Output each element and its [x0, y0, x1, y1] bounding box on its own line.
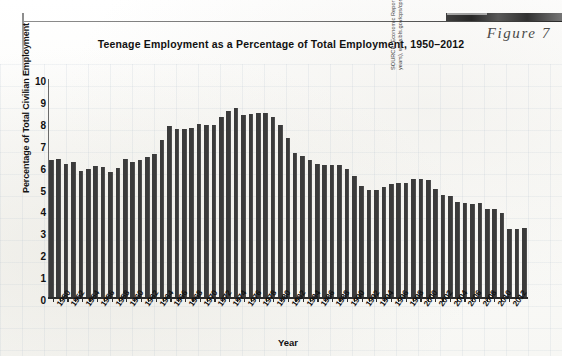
bar — [433, 189, 438, 297]
y-tick-4: 4 — [40, 207, 46, 218]
bar — [308, 160, 313, 297]
y-tick-8: 8 — [40, 119, 46, 130]
bar — [374, 190, 379, 297]
bar — [330, 165, 335, 297]
bar — [463, 203, 468, 297]
bar — [322, 165, 327, 297]
bar — [167, 126, 172, 297]
bar — [345, 169, 350, 297]
bar — [219, 117, 224, 297]
bar — [145, 157, 150, 297]
bar — [470, 204, 475, 297]
bar — [152, 154, 157, 297]
bar — [382, 187, 387, 297]
x-axis-title: Year — [49, 337, 527, 348]
y-tick-0: 0 — [40, 295, 46, 306]
bar — [116, 168, 121, 297]
bar — [101, 167, 106, 297]
bar — [108, 172, 113, 297]
bar — [396, 183, 401, 297]
bar — [182, 129, 187, 297]
bar — [389, 184, 394, 297]
bar — [204, 125, 209, 297]
bar — [286, 138, 291, 297]
bar — [300, 156, 305, 297]
y-tick-10: 10 — [35, 76, 46, 87]
source-note: SOURCE: Economic Report of the President… — [390, 0, 405, 70]
bar — [337, 165, 342, 297]
bar — [500, 213, 505, 297]
bar — [249, 114, 254, 297]
bar — [507, 229, 512, 297]
bar — [256, 113, 261, 297]
bar — [478, 203, 483, 297]
bar — [359, 186, 364, 297]
bar — [175, 129, 180, 297]
bar — [485, 209, 490, 297]
y-tick-5: 5 — [40, 185, 46, 196]
bar — [441, 195, 446, 297]
bar — [367, 190, 372, 297]
bar — [455, 202, 460, 297]
bar — [426, 180, 431, 297]
y-tick-6: 6 — [40, 163, 46, 174]
bar — [522, 228, 527, 297]
bar-series — [49, 79, 527, 297]
bar — [197, 124, 202, 297]
bar — [263, 113, 268, 297]
bar — [315, 164, 320, 297]
y-tick-9: 9 — [40, 97, 46, 108]
bar — [212, 125, 217, 297]
bar — [448, 196, 453, 297]
bar — [93, 166, 98, 297]
bar — [411, 179, 416, 297]
bar — [79, 171, 84, 297]
bar — [138, 160, 143, 297]
bar — [492, 209, 497, 297]
y-tick-1: 1 — [40, 273, 46, 284]
bar — [278, 125, 283, 297]
bar — [241, 115, 246, 297]
bar — [123, 159, 128, 297]
bar — [293, 153, 298, 297]
bar — [271, 117, 276, 297]
bar — [71, 162, 76, 297]
bar — [49, 160, 54, 297]
bar — [130, 162, 135, 297]
x-tick — [53, 298, 54, 302]
bar-chart: Percentage of Total Civilian Employment … — [0, 0, 562, 356]
bar — [226, 111, 231, 297]
y-axis-tick-labels: 012345678910 — [30, 74, 46, 300]
bar — [64, 164, 69, 297]
bar — [419, 179, 424, 297]
bar — [234, 108, 239, 297]
bar — [404, 183, 409, 297]
y-tick-7: 7 — [40, 141, 46, 152]
bar — [56, 159, 61, 297]
bar — [160, 140, 165, 297]
y-tick-2: 2 — [40, 251, 46, 262]
bar — [189, 128, 194, 297]
bar — [352, 176, 357, 297]
bar — [515, 229, 520, 297]
bar — [86, 169, 91, 297]
y-tick-3: 3 — [40, 229, 46, 240]
